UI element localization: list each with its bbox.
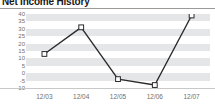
line-series-net-income bbox=[26, 14, 210, 88]
chart-title: Net Income History bbox=[2, 0, 90, 7]
x-axis-tick-label: 12/03 bbox=[36, 93, 52, 101]
x-axis-tick-label: 12/07 bbox=[183, 93, 199, 101]
x-axis-tick-label: 12/04 bbox=[73, 93, 89, 101]
data-point-marker[interactable] bbox=[116, 77, 121, 82]
data-point-marker[interactable] bbox=[42, 52, 47, 57]
y-axis-tick-label: 20 bbox=[1, 41, 25, 47]
y-axis-tick-label: 10 bbox=[1, 55, 25, 61]
y-axis-tick-label: 40 bbox=[1, 11, 25, 17]
y-axis-tick-label: -5 bbox=[1, 78, 25, 84]
y-axis-tick-label: 30 bbox=[1, 26, 25, 32]
net-income-history-chart-widget: Net Income History 4035302520151050-5-10… bbox=[0, 0, 215, 107]
x-axis-tick-label: 12/06 bbox=[147, 93, 163, 101]
y-axis-tick-label: 35 bbox=[1, 18, 25, 24]
y-axis-tick-label: 5 bbox=[1, 63, 25, 69]
x-axis-line bbox=[0, 88, 215, 89]
data-point-marker[interactable] bbox=[79, 25, 84, 30]
y-axis-tick-labels: 4035302520151050-5-10 bbox=[0, 14, 25, 88]
data-point-marker[interactable] bbox=[189, 14, 194, 18]
series-line bbox=[44, 15, 191, 85]
y-axis-tick-label: 25 bbox=[1, 33, 25, 39]
plot-area bbox=[26, 14, 210, 88]
y-axis-tick-label: 0 bbox=[1, 70, 25, 76]
data-point-marker[interactable] bbox=[152, 83, 157, 88]
y-axis-tick-label: 15 bbox=[1, 48, 25, 54]
title-divider bbox=[0, 8, 215, 9]
x-axis-tick-label: 12/05 bbox=[110, 93, 126, 101]
x-axis-tick-labels: 12/0312/0412/0512/0612/07 bbox=[26, 92, 210, 104]
